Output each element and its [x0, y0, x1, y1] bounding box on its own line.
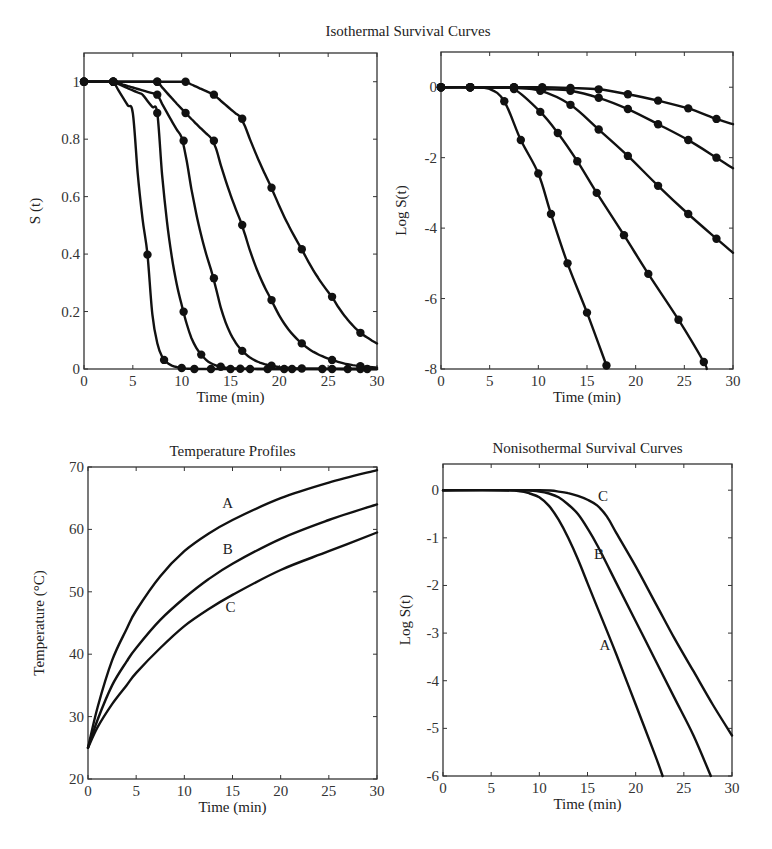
- x-axis-label: Time (min): [196, 389, 264, 406]
- data-point-marker: [238, 347, 246, 355]
- data-point-marker: [594, 85, 602, 93]
- x-tick-label: 25: [321, 373, 336, 389]
- data-point-marker: [267, 362, 275, 370]
- data-point-marker: [602, 361, 610, 369]
- data-point-marker: [644, 270, 652, 278]
- y-axis-label: Temperature (°C): [31, 570, 48, 675]
- data-point-marker: [267, 296, 275, 304]
- data-point-marker: [712, 115, 720, 123]
- data-point-marker: [153, 78, 161, 86]
- plot-frame: [443, 464, 732, 776]
- data-point-marker: [466, 83, 474, 91]
- series-a: A: [443, 490, 663, 776]
- data-point-marker: [207, 365, 215, 373]
- data-point-marker: [190, 365, 198, 373]
- data-point-marker: [517, 136, 525, 144]
- curve-label: C: [226, 599, 236, 615]
- y-axis-label: Log S(t): [393, 185, 410, 235]
- series-curve-1: [437, 83, 611, 370]
- data-point-marker: [712, 234, 720, 242]
- x-tick-label: 25: [676, 780, 691, 796]
- x-tick-label: 0: [437, 373, 445, 389]
- data-point-marker: [500, 97, 508, 105]
- data-point-marker: [109, 78, 117, 86]
- x-tick-label: 10: [532, 780, 547, 796]
- data-point-marker: [563, 259, 571, 267]
- data-point-marker: [210, 137, 218, 145]
- x-tick-label: 0: [84, 783, 92, 799]
- chart-title: Temperature Profiles: [170, 443, 296, 459]
- y-tick-label: -6: [427, 768, 440, 784]
- curve-label: C: [598, 488, 608, 504]
- data-point-marker: [566, 101, 574, 109]
- data-point-marker: [624, 152, 632, 160]
- x-tick-label: 15: [225, 783, 240, 799]
- data-point-marker: [554, 129, 562, 137]
- isothermal-log-plot: 051015202530-8-6-4-20Time (min)Log S(t): [393, 52, 741, 406]
- y-tick-label: 0.8: [61, 131, 80, 147]
- y-tick-label: -5: [427, 720, 440, 736]
- data-point-marker: [177, 364, 185, 372]
- figure: Isothermal Survival Curves 0510152025300…: [0, 0, 772, 849]
- y-tick-label: 0.4: [61, 246, 80, 262]
- data-point-marker: [684, 136, 692, 144]
- y-tick-label: -2: [425, 150, 438, 166]
- curve-line: [84, 82, 377, 344]
- curve-line: [84, 81, 377, 367]
- data-point-marker: [594, 94, 602, 102]
- x-tick-label: 20: [272, 373, 287, 389]
- x-tick-label: 20: [628, 373, 643, 389]
- data-point-marker: [356, 329, 364, 337]
- data-point-marker: [547, 210, 555, 218]
- y-axis-label: S (t): [27, 198, 44, 224]
- data-point-marker: [267, 184, 275, 192]
- plot-frame: [84, 53, 377, 369]
- y-tick-label: 0: [73, 361, 81, 377]
- data-point-marker: [153, 90, 161, 98]
- data-point-marker: [298, 245, 306, 253]
- curve-label: A: [599, 637, 610, 653]
- data-point-marker: [143, 250, 151, 258]
- curve-label: B: [223, 541, 233, 557]
- data-point-marker: [674, 315, 682, 323]
- data-point-marker: [700, 358, 708, 366]
- x-tick-label: 15: [223, 373, 238, 389]
- x-tick-label: 0: [439, 780, 447, 796]
- x-tick-label: 5: [487, 780, 495, 796]
- x-tick-label: 30: [370, 373, 385, 389]
- y-tick-label: -4: [425, 220, 438, 236]
- y-tick-label: 70: [69, 459, 84, 475]
- y-tick-label: 40: [69, 646, 84, 662]
- data-point-marker: [566, 84, 574, 92]
- data-point-marker: [217, 363, 225, 371]
- y-tick-label: 0.2: [61, 304, 80, 320]
- data-point-marker: [583, 308, 591, 316]
- x-tick-label: 25: [677, 373, 692, 389]
- curve-line: [84, 82, 377, 369]
- data-point-marker: [594, 125, 602, 133]
- x-tick-label: 15: [580, 373, 595, 389]
- y-tick-label: 30: [69, 709, 84, 725]
- data-point-marker: [328, 365, 336, 373]
- data-point-marker: [197, 350, 205, 358]
- y-tick-label: 20: [69, 771, 84, 787]
- y-tick-label: 60: [69, 521, 84, 537]
- y-tick-label: 0: [432, 482, 440, 498]
- curve-line: [441, 87, 607, 365]
- x-axis-label: Time (min): [198, 799, 266, 816]
- x-tick-label: 10: [177, 783, 192, 799]
- data-point-marker: [654, 182, 662, 190]
- data-point-marker: [80, 78, 88, 86]
- series-curve-3: [80, 78, 377, 374]
- y-tick-label: -1: [427, 530, 440, 546]
- y-tick-label: -4: [427, 673, 440, 689]
- x-tick-label: 15: [580, 780, 595, 796]
- x-axis-label: Time (min): [553, 796, 621, 813]
- data-point-marker: [238, 221, 246, 229]
- data-point-marker: [437, 83, 445, 91]
- x-tick-label: 30: [725, 780, 740, 796]
- nonisothermal-survival-plot: 051015202530-6-5-4-3-2-10Time (min)Log S…: [397, 440, 740, 813]
- data-point-marker: [624, 105, 632, 113]
- isothermal-linear-plot: 05101520253000.20.40.60.81Time (min)S (t…: [27, 53, 385, 406]
- figure-title: Isothermal Survival Curves: [326, 23, 491, 39]
